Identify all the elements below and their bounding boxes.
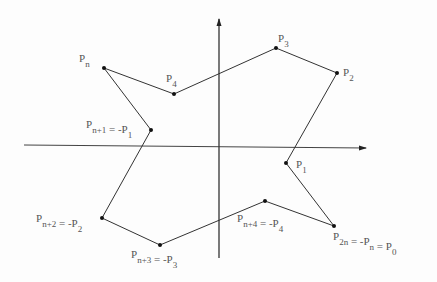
vertex-point <box>335 71 339 75</box>
vertex-point <box>263 199 267 203</box>
vertex-point <box>158 243 162 247</box>
polygon-edge <box>104 68 174 94</box>
vertex-point <box>332 224 336 228</box>
polygon-edge <box>174 48 276 94</box>
label-pn2: Pn+2 = -P2 <box>36 212 82 234</box>
vertex-point <box>102 66 106 70</box>
polygon-edge <box>102 218 160 245</box>
polygon-edge <box>276 48 337 73</box>
label-pn: Pn <box>79 52 90 69</box>
label-p2: P2 <box>343 66 354 83</box>
vertex-point <box>172 92 176 96</box>
polygon-edge <box>286 163 334 226</box>
polygon-edge <box>286 73 337 163</box>
label-pn4: Pn+4 = -P4 <box>237 212 284 234</box>
vertex-labels: PnP4P3P2P1Pn+1 = -P1Pn+2 = -P2Pn+3 = -P3… <box>36 32 397 270</box>
vertex-point <box>149 128 153 132</box>
label-pn1: Pn+1 = -P1 <box>86 118 132 140</box>
polygon-edge <box>104 68 151 130</box>
vertex-point <box>284 161 288 165</box>
polygon-diagram: PnP4P3P2P1Pn+1 = -P1Pn+2 = -P2Pn+3 = -P3… <box>0 0 437 282</box>
label-p2n: P2n = -Pn = P0 <box>333 230 397 257</box>
label-pn3: Pn+3 = -P3 <box>131 248 178 270</box>
vertex-point <box>274 46 278 50</box>
label-p4: P4 <box>166 72 177 89</box>
diagram-canvas: PnP4P3P2P1Pn+1 = -P1Pn+2 = -P2Pn+3 = -P3… <box>0 0 437 282</box>
label-p3: P3 <box>278 32 289 49</box>
vertex-point <box>100 216 104 220</box>
x-axis <box>24 145 366 148</box>
polygon-edge <box>102 130 151 218</box>
label-p1: P1 <box>296 158 307 175</box>
